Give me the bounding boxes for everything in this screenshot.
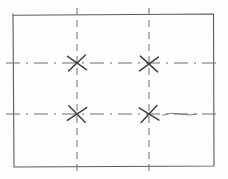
canvas-background bbox=[0, 0, 228, 179]
sketch-canvas: Hand-drawn rectangular plate layout sket… bbox=[0, 0, 228, 179]
sketch-drawing-surface bbox=[0, 0, 228, 179]
